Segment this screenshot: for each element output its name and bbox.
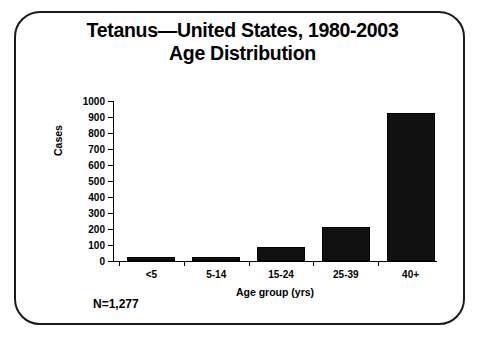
- x-axis-tick-label: 40+: [402, 269, 419, 280]
- plot-area: 10009008007006005004003002001000 <55-141…: [113, 101, 437, 262]
- y-axis-tick: [108, 165, 113, 166]
- y-axis-tick: [108, 101, 113, 102]
- chart-title-line2: Age Distribution: [0, 42, 485, 65]
- y-axis-tick-label: 300: [88, 208, 105, 219]
- x-axis-title: Age group (yrs): [113, 286, 437, 298]
- y-axis-tick: [108, 229, 113, 230]
- x-axis-tick-label: 5-14: [206, 269, 226, 280]
- x-axis-tick: [184, 261, 185, 266]
- x-axis-tick: [378, 261, 379, 266]
- y-axis-tick: [108, 197, 113, 198]
- x-axis-tick-label: 15-24: [268, 269, 294, 280]
- y-axis-tick: [108, 213, 113, 214]
- y-axis-tick-label: 100: [88, 240, 105, 251]
- y-axis-line: [113, 101, 114, 262]
- y-axis-tick: [108, 117, 113, 118]
- y-axis-title: Cases: [52, 125, 64, 156]
- y-axis-tick: [108, 181, 113, 182]
- y-axis-tick-label: 400: [88, 192, 105, 203]
- y-axis-tick-label: 800: [88, 128, 105, 139]
- x-axis-tick-label: 25-39: [333, 269, 359, 280]
- y-axis-tick-label: 1000: [83, 96, 105, 107]
- bar: [322, 227, 370, 261]
- bar: [127, 257, 175, 261]
- y-axis-tick: [108, 149, 113, 150]
- bar: [192, 257, 240, 261]
- y-axis-tick: [108, 261, 113, 262]
- y-axis-tick-label: 0: [99, 256, 105, 267]
- y-axis-tick-label: 700: [88, 144, 105, 155]
- bar: [387, 113, 435, 261]
- x-axis-tick: [119, 261, 120, 266]
- x-axis-tick: [249, 261, 250, 266]
- y-axis-tick-label: 900: [88, 112, 105, 123]
- y-axis-tick: [108, 133, 113, 134]
- y-axis-tick-label: 500: [88, 176, 105, 187]
- x-axis-tick: [313, 261, 314, 266]
- y-axis-tick: [108, 245, 113, 246]
- sample-size-note: N=1,277: [93, 297, 139, 311]
- bar: [257, 247, 305, 261]
- x-axis-line: [113, 261, 437, 262]
- x-axis-tick-label: <5: [146, 269, 157, 280]
- chart-title: Tetanus—United States, 1980-2003 Age Dis…: [0, 19, 485, 65]
- y-axis-tick-label: 200: [88, 224, 105, 235]
- chart-title-line1: Tetanus—United States, 1980-2003: [87, 19, 399, 41]
- y-axis-tick-label: 600: [88, 160, 105, 171]
